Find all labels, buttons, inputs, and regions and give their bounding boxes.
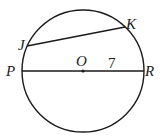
chord-jk <box>27 27 125 46</box>
label-p: P <box>5 63 15 79</box>
circle-diagram: J K P R O 7 <box>0 0 160 138</box>
radius-length: 7 <box>108 55 116 71</box>
label-k: K <box>125 16 137 32</box>
label-o: O <box>76 53 87 69</box>
label-r: R <box>144 63 154 79</box>
center-point <box>81 69 84 72</box>
